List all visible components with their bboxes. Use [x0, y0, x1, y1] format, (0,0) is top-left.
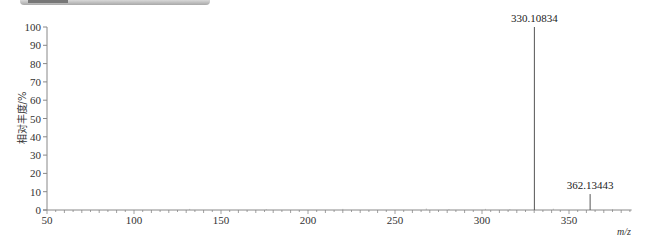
x-tick-label: 150: [213, 214, 230, 226]
y-tick-label: 70: [30, 76, 42, 88]
x-tick-label: 350: [561, 214, 578, 226]
y-tick-label: 100: [25, 21, 42, 33]
x-tick-label: 200: [300, 214, 317, 226]
y-tick-label: 10: [30, 186, 42, 198]
chart-labels: 330.10834362.13443: [511, 12, 614, 191]
x-tick-label: 300: [474, 214, 491, 226]
y-tick-label: 50: [30, 113, 42, 125]
x-tick-label: 250: [387, 214, 404, 226]
peak-label: 330.10834: [511, 12, 558, 24]
y-tick-label: 80: [30, 58, 42, 70]
x-tick-label: 50: [42, 214, 54, 226]
chart-axes: 0102030405060708090100501001502002503003…: [25, 21, 632, 226]
x-tick-label: 100: [126, 214, 143, 226]
y-tick-label: 20: [30, 167, 42, 179]
y-tick-label: 90: [30, 39, 42, 51]
x-axis-title: m/z: [617, 226, 631, 237]
y-tick-label: 60: [30, 94, 42, 106]
mass-spectrum-chart: 0102030405060708090100501001502002503003…: [0, 0, 648, 246]
y-tick-label: 40: [30, 131, 42, 143]
peak-label: 362.13443: [567, 179, 614, 191]
y-axis-title: 相对丰度/%: [16, 92, 28, 145]
y-tick-label: 30: [30, 149, 42, 161]
